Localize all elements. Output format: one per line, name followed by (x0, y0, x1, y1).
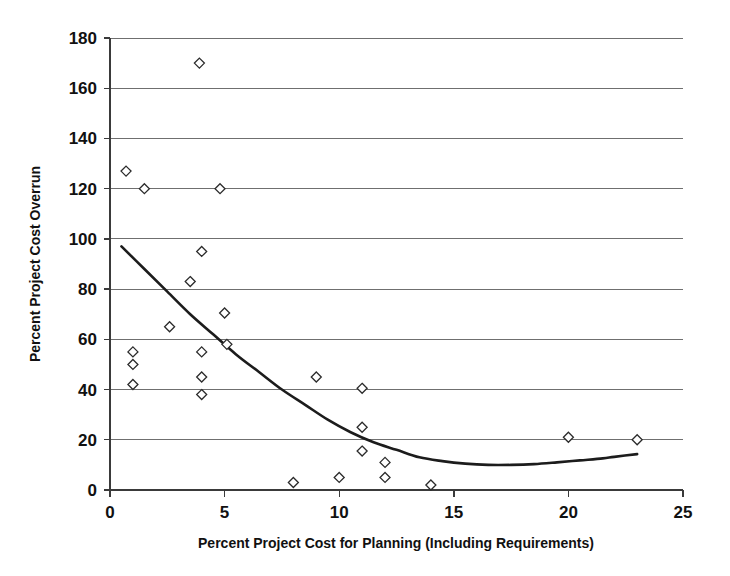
x-axis-title: Percent Project Cost for Planning (Inclu… (198, 535, 594, 551)
y-tick-label-160: 160 (69, 79, 97, 98)
y-tick-label-20: 20 (78, 431, 97, 450)
x-tick-label-5: 5 (220, 503, 229, 522)
y-tick-label-180: 180 (69, 29, 97, 48)
x-tick-label-10: 10 (330, 503, 349, 522)
x-tick-label-20: 20 (559, 503, 578, 522)
y-tick-label-0: 0 (88, 481, 97, 500)
x-tick-label-25: 25 (674, 503, 693, 522)
y-tick-label-140: 140 (69, 129, 97, 148)
y-tick-label-60: 60 (78, 330, 97, 349)
x-tick-label-0: 0 (105, 503, 114, 522)
scatter-plot-svg: 020406080100120140160180 0510152025 Perc… (0, 0, 730, 576)
y-tick-label-80: 80 (78, 280, 97, 299)
y-tick-label-40: 40 (78, 381, 97, 400)
x-tick-label-15: 15 (444, 503, 463, 522)
y-axis-title: Percent Project Cost Overrun (27, 166, 43, 362)
y-tick-label-100: 100 (69, 230, 97, 249)
y-tick-label-120: 120 (69, 180, 97, 199)
chart-figure: 020406080100120140160180 0510152025 Perc… (0, 0, 730, 576)
